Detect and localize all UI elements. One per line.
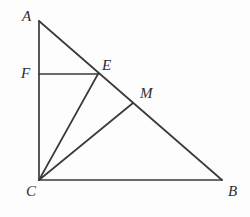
vertex-label-f: F: [21, 66, 30, 81]
vertex-label-c: C: [26, 184, 36, 199]
vertex-label-e: E: [102, 58, 111, 73]
segment-ce: [39, 74, 98, 180]
vertex-label-b: B: [228, 184, 237, 199]
geometry-figure: AFEMCB: [0, 0, 250, 217]
segment-ab: [39, 21, 222, 180]
vertex-label-m: M: [140, 86, 153, 101]
vertex-label-a: A: [22, 9, 31, 24]
geometry-canvas: [0, 0, 250, 217]
segment-layer: [39, 21, 222, 180]
segment-cm: [39, 103, 133, 180]
